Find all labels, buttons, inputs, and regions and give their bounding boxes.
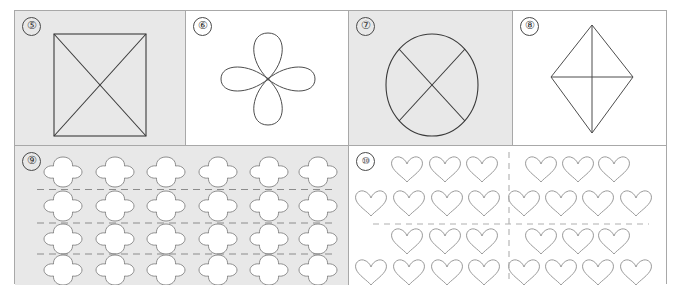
panel-6-number: ⑥ [193,17,212,36]
worksheet-row-top: ⑤ ⑥ [15,11,666,145]
four-petal-flower-figure [213,27,323,131]
circle-with-diagonals-figure [384,32,480,138]
clover-grid-figure [15,146,349,285]
worksheet-row-bottom: ⑨ [15,145,666,285]
kite-with-axes-figure [549,23,635,135]
worksheet: ⑤ ⑥ [14,10,667,284]
panel-6[interactable]: ⑥ [186,11,349,145]
heart-group-top-right [509,157,652,216]
panel-9[interactable]: ⑨ [15,146,349,285]
heart-quadrants-figure [349,146,666,285]
panel-10[interactable]: ⑩ [349,146,666,285]
square-with-diagonals-figure [53,33,147,137]
heart-group-top-left [356,157,500,216]
panel-5[interactable]: ⑤ [15,11,186,145]
panel-8[interactable]: ⑧ [513,11,666,145]
panel-8-number: ⑧ [520,17,539,36]
heart-group-bottom-right [509,229,652,285]
heart-group-bottom-left [356,229,500,285]
panel-7[interactable]: ⑦ [349,11,513,145]
panel-7-number: ⑦ [356,17,375,36]
panel-5-number: ⑤ [22,17,41,36]
panel-9-dashed-lines [37,190,333,255]
